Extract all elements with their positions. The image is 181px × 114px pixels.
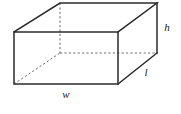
length-label: l (144, 67, 147, 78)
prism-svg (0, 0, 181, 114)
width-label: w (62, 89, 69, 100)
figure-background (0, 0, 181, 114)
prism-figure: h l w (0, 0, 181, 114)
height-label: h (164, 22, 170, 33)
